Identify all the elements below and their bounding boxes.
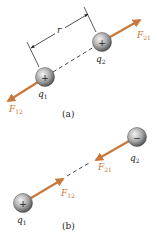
charge-q2: − bbox=[128, 128, 147, 147]
extension-line-q2 bbox=[84, 7, 96, 32]
q1-label: q1 bbox=[38, 89, 48, 100]
minus-sign-icon: − bbox=[133, 133, 141, 143]
charge-q1: + bbox=[14, 194, 33, 213]
connecting-dashed-line bbox=[53, 47, 94, 72]
coulomb-force-diagram: r + + q1 q2 F12 F21 (a) + − bbox=[0, 0, 157, 235]
connecting-dashed-line bbox=[67, 163, 89, 176]
charge-q2: + bbox=[93, 33, 112, 52]
f12-label: F12 bbox=[8, 104, 23, 115]
distance-label: r bbox=[57, 25, 62, 35]
plus-sign-icon: + bbox=[41, 73, 49, 83]
charge-q1: + bbox=[36, 68, 55, 87]
caption-b: (b) bbox=[62, 221, 75, 231]
q2-label: q2 bbox=[130, 153, 140, 164]
force-arrow-f12 bbox=[31, 179, 63, 198]
q2-label: q2 bbox=[96, 54, 106, 65]
plus-sign-icon: + bbox=[19, 199, 27, 209]
plus-sign-icon: + bbox=[98, 38, 106, 48]
caption-a: (a) bbox=[62, 109, 74, 119]
f21-label: F21 bbox=[136, 30, 151, 41]
f12-label: F12 bbox=[60, 188, 75, 199]
force-arrow-f21 bbox=[96, 141, 129, 160]
extension-line-q1 bbox=[27, 42, 39, 67]
q1-label: q1 bbox=[17, 215, 27, 226]
panel-a: r + + q1 q2 F12 F21 (a) bbox=[8, 7, 151, 119]
diagram-canvas: r + + q1 q2 F12 F21 (a) + − bbox=[0, 0, 157, 235]
panel-b: + − q1 q2 F12 F21 (b) bbox=[14, 128, 147, 232]
force-arrow-f21 bbox=[110, 20, 140, 37]
force-arrow-f12 bbox=[8, 82, 38, 101]
f21-label: F21 bbox=[97, 162, 112, 173]
